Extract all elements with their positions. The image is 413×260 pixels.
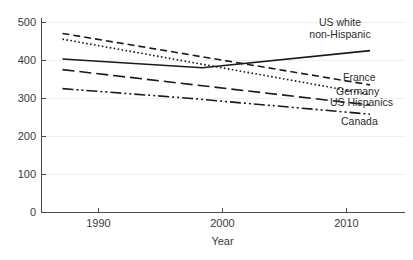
series-label-canada: Canada bbox=[341, 115, 378, 127]
y-tick-label-400: 400 bbox=[18, 54, 36, 66]
series-label-france: France bbox=[343, 71, 376, 83]
series-line-canada bbox=[62, 89, 370, 115]
series-label-us-white-line1: US white bbox=[319, 16, 361, 28]
y-tick-label-200: 200 bbox=[18, 130, 36, 142]
y-tick-label-100: 100 bbox=[18, 168, 36, 180]
series-label-us-hispanics: US Hispanics bbox=[330, 96, 393, 108]
x-tick-label-2000: 2000 bbox=[210, 217, 234, 229]
y-tick-label-500: 500 bbox=[18, 16, 36, 28]
x-tick-label-2010: 2010 bbox=[334, 217, 358, 229]
series-lines bbox=[62, 33, 370, 114]
x-tick-label-1990: 1990 bbox=[86, 217, 110, 229]
y-tick-label-300: 300 bbox=[18, 92, 36, 104]
y-axis-tick-labels: 500 400 300 200 100 0 bbox=[18, 16, 36, 218]
x-axis-tick-labels: 1990 2000 2010 bbox=[86, 217, 358, 229]
y-axis-ticks bbox=[42, 23, 47, 213]
x-axis-ticks bbox=[99, 208, 347, 213]
chart-canvas: 500 400 300 200 100 0 1990 2000 2010 Yea… bbox=[0, 0, 413, 260]
x-axis-title: Year bbox=[211, 235, 234, 247]
series-label-us-white-line2: non-Hispanic bbox=[309, 28, 370, 40]
series-line-us-hispanics bbox=[62, 70, 370, 105]
y-tick-label-0: 0 bbox=[30, 206, 36, 218]
series-line-france bbox=[62, 33, 370, 84]
line-chart: 500 400 300 200 100 0 1990 2000 2010 Yea… bbox=[0, 0, 413, 260]
